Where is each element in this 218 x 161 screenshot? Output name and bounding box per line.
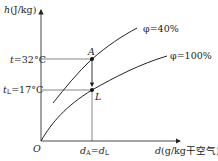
t-a-label: t=32°C [10, 55, 46, 65]
phi-100-label: φ=100% [170, 51, 212, 61]
y-axis-label: h(J/kg) [4, 5, 36, 15]
point-l-label: L [95, 92, 101, 102]
d-l-sub: L [105, 149, 109, 157]
d-equality-label: dA=dL [80, 146, 109, 157]
phi-40-label: φ=40% [143, 24, 179, 34]
y-axis-unit: (J/kg) [10, 4, 36, 15]
point-a-label: A [88, 47, 95, 57]
point-a [90, 57, 94, 61]
point-l [90, 88, 94, 92]
curve-phi-100 [41, 56, 167, 141]
t-l-label: tL=17°C [3, 85, 43, 96]
t-l-value: =17°C [11, 84, 43, 95]
t-a-value: =32°C [14, 54, 46, 65]
x-axis-label: d(g/kg干空气) [155, 146, 218, 156]
origin-label: O [33, 144, 41, 154]
psychrometric-chart [0, 0, 218, 161]
d-eq-sign: = [91, 145, 99, 156]
x-axis-unit: (g/kg干空气) [161, 145, 218, 156]
